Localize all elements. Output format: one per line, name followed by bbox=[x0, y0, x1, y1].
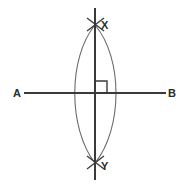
construction-diagram-svg: A B X Y bbox=[0, 0, 186, 187]
point-label-y: Y bbox=[101, 160, 109, 172]
point-label-a: A bbox=[13, 87, 21, 99]
point-label-x: X bbox=[101, 19, 109, 31]
point-label-b: B bbox=[168, 87, 176, 99]
geometry-figure: A B X Y bbox=[0, 0, 186, 187]
